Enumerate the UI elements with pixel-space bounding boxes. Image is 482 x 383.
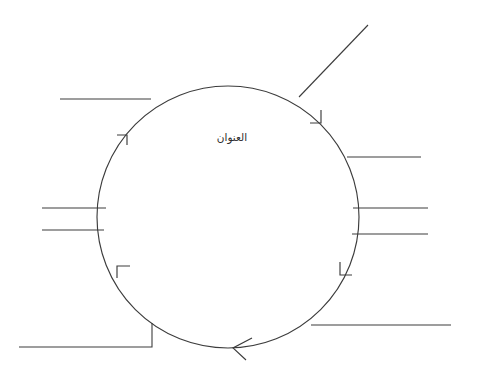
- cycle-ring[interactable]: [97, 86, 359, 348]
- connector-bottom-left[interactable]: [19, 323, 152, 347]
- cycle-diagram-svg: العنوان: [0, 0, 482, 383]
- connector-top-right[interactable]: [299, 25, 368, 97]
- cycle-diagram-canvas: العنوان: [0, 0, 482, 383]
- arrowhead-bottom-icon: [233, 338, 252, 360]
- center-title-label: العنوان: [217, 131, 247, 144]
- arrowhead-lower-left-icon: [117, 266, 130, 278]
